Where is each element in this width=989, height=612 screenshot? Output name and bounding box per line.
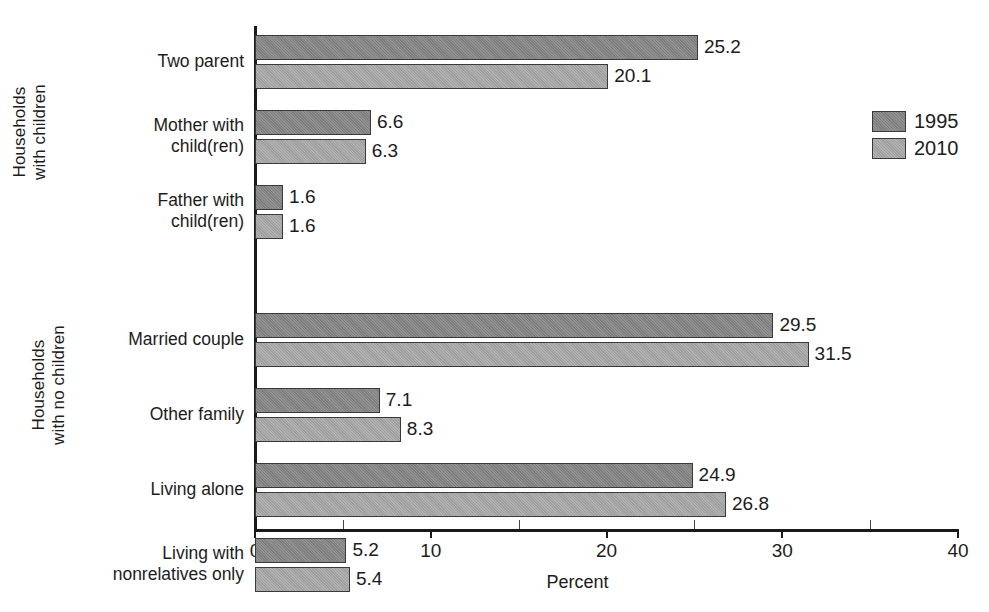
x-tick-label-30: 30 [762,540,802,562]
bar-nonrelatives-1995[interactable] [255,538,346,563]
bar-value-mother-1995: 6.6 [377,111,403,133]
bar-value-married-couple-2010: 31.5 [815,343,852,365]
bar-chart: Households with children Households with… [0,0,989,612]
category-label-other-family: Other family [34,404,244,425]
bar-living-alone-2010[interactable] [255,492,726,517]
category-label-line-1: Two parent [34,51,244,72]
legend-item-2010[interactable]: 2010 [872,135,959,162]
category-label-line-1: Mother with [34,115,244,136]
bar-value-two-parent-2010: 20.1 [614,65,651,87]
bar-married-couple-2010[interactable] [255,342,809,367]
x-minor-tick-35 [870,520,871,529]
legend-label-1995: 1995 [914,110,959,133]
x-minor-tick-15 [519,520,520,529]
category-label-line-2: child(ren) [34,136,244,157]
legend-swatch-1995 [872,111,906,132]
x-tick-20 [606,529,608,538]
category-label-line-1: Married couple [34,329,244,350]
bar-other-family-2010[interactable] [255,417,401,442]
category-label-line-1: Living alone [34,479,244,500]
x-tick-40 [957,529,959,538]
bar-value-nonrelatives-1995: 5.2 [352,539,378,561]
legend-item-1995[interactable]: 1995 [872,108,959,135]
legend-label-2010: 2010 [914,137,959,160]
category-label-father-with-children: Father withchild(ren) [34,190,244,232]
bar-father-1995[interactable] [255,185,283,210]
bar-mother-2010[interactable] [255,139,366,164]
x-tick-30 [781,529,783,538]
bar-value-living-alone-1995: 24.9 [699,464,736,486]
bar-value-father-1995: 1.6 [289,186,315,208]
plot-area: 010203040 Two parentMother withchild(ren… [0,0,989,612]
x-tick-0 [254,529,256,538]
category-label-line-1: Living with [34,543,244,564]
category-label-living-alone: Living alone [34,479,244,500]
bar-other-family-1995[interactable] [255,388,380,413]
bar-married-couple-1995[interactable] [255,313,773,338]
category-label-married-couple: Married couple [34,329,244,350]
category-label-line-1: Father with [34,190,244,211]
bar-father-2010[interactable] [255,214,283,239]
bar-value-father-2010: 1.6 [289,215,315,237]
category-label-two-parent: Two parent [34,51,244,72]
bar-two-parent-2010[interactable] [255,64,608,89]
x-minor-tick-25 [694,520,695,529]
category-label-line-1: Other family [34,404,244,425]
bar-value-other-family-2010: 8.3 [407,418,433,440]
bar-two-parent-1995[interactable] [255,35,698,60]
y-axis-line [254,26,257,532]
bar-value-two-parent-1995: 25.2 [704,36,741,58]
bar-value-other-family-1995: 7.1 [386,389,412,411]
x-tick-label-20: 20 [587,540,627,562]
bar-mother-1995[interactable] [255,110,371,135]
bar-value-living-alone-2010: 26.8 [732,493,769,515]
bar-value-married-couple-1995: 29.5 [779,314,816,336]
x-axis-title: Percent [0,572,989,593]
x-tick-10 [430,529,432,538]
bar-living-alone-1995[interactable] [255,463,693,488]
x-tick-label-10: 10 [411,540,451,562]
legend: 1995 2010 [872,108,959,162]
x-minor-tick-5 [343,520,344,529]
legend-swatch-2010 [872,138,906,159]
category-label-line-2: child(ren) [34,211,244,232]
category-label-mother-with-children: Mother withchild(ren) [34,115,244,157]
x-tick-label-40: 40 [938,540,978,562]
bar-value-mother-2010: 6.3 [372,140,398,162]
